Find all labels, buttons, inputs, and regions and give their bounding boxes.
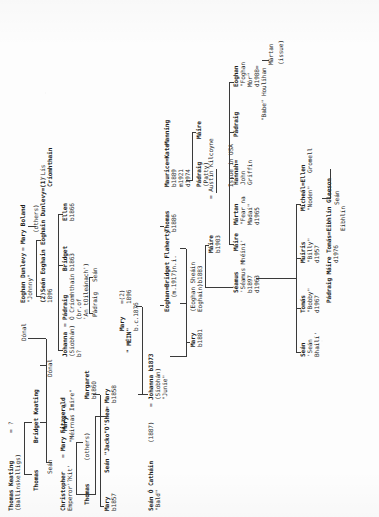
mary-imire-marriage-marker: = (62, 403, 69, 407)
connector-g4-child-v2 (180, 303, 186, 304)
connector-g5l-v2 (229, 178, 234, 179)
connector-usa-arrow-line (216, 169, 217, 193)
sean-jacko-marriage-marker: = (104, 406, 111, 410)
connector-g5-thomas-v (160, 226, 164, 227)
person-eoghan-dunlevy-nick: "Johnny" (27, 274, 34, 303)
person-mary-boland-name: Mary Boland (20, 205, 27, 244)
connector-g6-v3 (296, 258, 301, 259)
person-padraig-g5: Pádraig (233, 112, 240, 137)
connector-g3-v-imire (103, 416, 108, 417)
person-eibhlin-detail: Eibhlín (340, 206, 347, 231)
person-sean-jacko-name: Seán "Jacko"O'Shea (104, 409, 111, 473)
connector-g3-v1 (100, 506, 104, 507)
person-thomas-k2: Thomas (33, 470, 40, 491)
connector-maurice-v2 (192, 132, 196, 133)
connector-g5l-v4 (229, 82, 234, 83)
person-austin-kilcoyne-name: = Austin Kilcoyne (208, 138, 215, 199)
connector-dunlevy-v1 (36, 296, 41, 297)
connector-dunlevy-v2 (36, 240, 41, 241)
connector-g6-bar (296, 205, 297, 353)
person-eoghain-dunlevy-1-detail2: Críomhthain (47, 148, 54, 187)
connector-maurice-children-bar (192, 133, 193, 181)
connector-martan-issue-v (262, 60, 269, 61)
person-mary-b1881-detail: b1881 (197, 329, 204, 347)
christopher-marriage-marker: = (60, 454, 67, 458)
sean-o-cathain-marriage-year: (1887) (148, 422, 155, 443)
connector-g6-trunk (256, 278, 296, 279)
person-john-griffin-detail2: Griffin (247, 160, 254, 185)
connector-g1-keating-h (24, 423, 25, 475)
connector-g3-sib-v2 (58, 265, 63, 266)
person-sean-eoghain-detail: 1896 (47, 289, 54, 303)
connector-g6-v1 (296, 352, 301, 353)
connector-f2-v3 (95, 416, 103, 417)
person-donal-a: Dónal (47, 359, 54, 377)
person-ellen-b1866-detail: b1866 (69, 203, 76, 221)
connector-g1-fitz-v2 (76, 442, 83, 443)
person-sean-g3: Seán (92, 268, 99, 282)
connector-g6-child-bar (330, 169, 331, 199)
connector-g5l-v1 (229, 244, 234, 245)
person-micheal-noden-detail: "Noden" (307, 186, 314, 211)
person-mary-imire-detail: "Méirnas Imire" (69, 389, 76, 443)
person-jacko-spouse-detail: b1858 (111, 385, 118, 403)
connector-g3-sib-v3 (58, 214, 63, 215)
annotation-issue: (issue) (278, 40, 285, 65)
person-muiris-billy-detail2: d1957 (314, 245, 321, 263)
thomas-keating-spouse-unknown: ? (8, 421, 15, 425)
connector-criomhthain-bar (89, 278, 90, 314)
person-johanna-junie-nick: "Junie" (162, 375, 169, 400)
connector-g5-eoghan-v (160, 305, 164, 306)
connector-g1-fitz-h (76, 443, 77, 495)
connector-g2-s2 (40, 365, 46, 366)
connector-g3-sib-v1 (58, 350, 63, 351)
connector-g4-mein-v (136, 306, 142, 307)
person-sean-o-cathain-detail: "Bald" (155, 490, 162, 511)
connector-maire1903-v (205, 245, 209, 246)
connector-f2-v2 (88, 494, 95, 495)
person-maurice-detail3: d1974 (185, 169, 192, 187)
connector-g2-s1 (46, 462, 52, 463)
connector-g5-mary-v (186, 342, 190, 343)
person-maire-martan-name: Máire (233, 233, 240, 251)
person-mary-b1857-detail: b1857 (111, 493, 118, 511)
person-eoghan-sheain-detail: Eoghain)b1883 (197, 266, 204, 312)
person-kate-manning-name: Manning (164, 120, 171, 145)
person-thomas-keating-detail: (Ballinskelligs) (15, 454, 22, 511)
connector-g1-fitz-v1 (76, 494, 83, 495)
connector-g3-siblings-bar (58, 215, 59, 351)
connector-seamus-maire-bar (205, 246, 206, 288)
person-mary-mein-detail: " MÉIN" (126, 328, 133, 353)
person-ellen-gromell-name: Gromell (307, 148, 314, 173)
person-tomas-bobby-detail2: d1967 (314, 295, 321, 313)
person-margaret-detail: b1860 (91, 381, 98, 399)
mary-mein-marriage-year: 1896 (126, 290, 133, 304)
connector-g5l-v3 (229, 132, 234, 133)
connector-g6-v4 (296, 204, 301, 205)
eoghan-dunlevy-marriage-marker: = (20, 247, 27, 251)
connector-seamus-v (205, 287, 233, 288)
person-eoghan-bridget-flaherty-detail: (m.1917)n.i. (171, 255, 178, 298)
connector-g1-keating-v2 (24, 422, 32, 423)
connector-g6-v2 (296, 308, 301, 309)
connector-g2-s3 (28, 338, 46, 339)
person-christopher-detail: Emperor'?Kit' (67, 465, 74, 511)
connector-g4-children-bar (186, 249, 187, 357)
connector-g2-sibling-bar (46, 339, 47, 463)
connector-g6-child-v (322, 198, 330, 199)
connector-criomhthain-v2 (89, 277, 93, 278)
connector-maurice-v1 (186, 180, 192, 181)
sean-o-cathain-marriage-marker: = (148, 403, 155, 407)
connector-g4-child-v1 (170, 356, 186, 357)
person-sean-g6: Seán (334, 191, 341, 205)
person-bridget-b1863-detail: b1863 (69, 253, 76, 271)
person-thomas-b1886-detail: b1886 (171, 214, 178, 232)
person-eoghain-dunlevy-1-name: Eoghain Dunlevy=(1) (40, 177, 47, 245)
family-tree-sheet: Thomas Keating (Ballinskelligs) = ? Chri… (0, 0, 379, 517)
person-tomas-d1976-detail: d1976 (333, 245, 340, 263)
connector-dunlevy-v3 (28, 226, 36, 227)
person-martan-issue-name: Mártan (268, 44, 275, 65)
person-donal-b: Dónal (21, 323, 28, 341)
connector-g3-bar (100, 395, 101, 507)
connector-g4-child-v3 (180, 248, 186, 249)
